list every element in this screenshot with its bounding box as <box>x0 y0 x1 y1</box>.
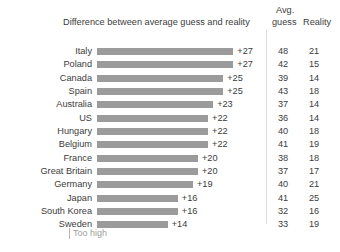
table-row: France+203818 <box>0 152 340 165</box>
difference-value: +27 <box>237 45 253 58</box>
difference-value: +23 <box>217 98 233 111</box>
country-label: Japan <box>0 192 92 205</box>
difference-value: +16 <box>182 205 198 218</box>
avg-guess-value: 41 <box>272 138 294 151</box>
difference-bar <box>97 141 208 148</box>
difference-value: +19 <box>197 178 213 191</box>
country-label: Canada <box>0 72 92 85</box>
difference-bar <box>97 88 223 95</box>
avg-guess-value: 33 <box>272 218 294 231</box>
difference-bar <box>97 168 198 175</box>
avg-guess-value: 42 <box>272 58 294 71</box>
table-row: Great Britain+203717 <box>0 165 340 178</box>
difference-value: +16 <box>182 192 198 205</box>
difference-bar <box>97 48 233 55</box>
difference-bar <box>97 128 208 135</box>
avg-guess-value: 36 <box>272 112 294 125</box>
difference-bar <box>97 195 178 202</box>
table-row: Australia+233714 <box>0 98 340 111</box>
country-label: US <box>0 112 92 125</box>
difference-value: +20 <box>202 165 218 178</box>
legend-tick-mark <box>69 228 70 239</box>
avg-guess-value: 43 <box>272 85 294 98</box>
avg-guess-value: 40 <box>272 178 294 191</box>
reality-value: 25 <box>303 192 325 205</box>
reality-value: 21 <box>303 45 325 58</box>
difference-value: +22 <box>212 125 228 138</box>
avg-guess-value: 48 <box>272 45 294 58</box>
reality-value: 14 <box>303 72 325 85</box>
table-row: Spain+254318 <box>0 85 340 98</box>
avg-guess-value: 41 <box>272 192 294 205</box>
difference-bar <box>97 61 233 68</box>
difference-value: +20 <box>202 152 218 165</box>
reality-value: 16 <box>303 205 325 218</box>
reality-value: 14 <box>303 112 325 125</box>
country-label: Poland <box>0 58 92 71</box>
country-label: Hungary <box>0 125 92 138</box>
avg-guess-value: 39 <box>272 72 294 85</box>
avg-guess-value: 40 <box>272 125 294 138</box>
table-row: Canada+253914 <box>0 72 340 85</box>
difference-bar <box>97 221 168 228</box>
avg-guess-value: 37 <box>272 98 294 111</box>
difference-value: +25 <box>227 85 243 98</box>
avg-guess-value: 32 <box>272 205 294 218</box>
avg-guess-value: 38 <box>272 152 294 165</box>
table-row: Germany+194021 <box>0 178 340 191</box>
table-row: Japan+164125 <box>0 192 340 205</box>
difference-bar <box>97 115 208 122</box>
difference-bar <box>97 208 178 215</box>
reality-value: 18 <box>303 125 325 138</box>
country-label: Australia <box>0 98 92 111</box>
difference-value: +22 <box>212 112 228 125</box>
table-row: Poland+274215 <box>0 58 340 71</box>
difference-bar <box>97 75 223 82</box>
country-label: Italy <box>0 45 92 58</box>
reality-value: 19 <box>303 138 325 151</box>
table-row: South Korea+163216 <box>0 205 340 218</box>
difference-value: +27 <box>237 58 253 71</box>
reality-value: 15 <box>303 58 325 71</box>
column-header-reality: Reality <box>303 17 331 27</box>
table-row: Sweden+143319 <box>0 218 340 231</box>
reality-value: 21 <box>303 178 325 191</box>
column-header-difference: Difference between average guess and rea… <box>63 17 250 27</box>
difference-value: +14 <box>172 218 188 231</box>
difference-value: +22 <box>212 138 228 151</box>
country-label: France <box>0 152 92 165</box>
difference-bar <box>97 155 198 162</box>
column-header-avg-line1: Avg. <box>276 5 294 15</box>
difference-bar <box>97 181 193 188</box>
difference-value: +25 <box>227 72 243 85</box>
country-label: Germany <box>0 178 92 191</box>
guess-vs-reality-chart: Difference between average guess and rea… <box>0 0 340 252</box>
reality-value: 17 <box>303 165 325 178</box>
reality-value: 14 <box>303 98 325 111</box>
reality-value: 18 <box>303 152 325 165</box>
legend-label-too-high: Too high <box>73 228 107 239</box>
table-row: Belgium+224119 <box>0 138 340 151</box>
country-label: Spain <box>0 85 92 98</box>
country-label: Great Britain <box>0 165 92 178</box>
table-row: US+223614 <box>0 112 340 125</box>
reality-value: 19 <box>303 218 325 231</box>
column-header-avg-guess: guess <box>272 17 297 27</box>
country-label: Belgium <box>0 138 92 151</box>
avg-guess-value: 37 <box>272 165 294 178</box>
reality-value: 18 <box>303 85 325 98</box>
table-row: Hungary+224018 <box>0 125 340 138</box>
difference-bar <box>97 101 213 108</box>
country-label: South Korea <box>0 205 92 218</box>
table-row: Italy+274821 <box>0 45 340 58</box>
